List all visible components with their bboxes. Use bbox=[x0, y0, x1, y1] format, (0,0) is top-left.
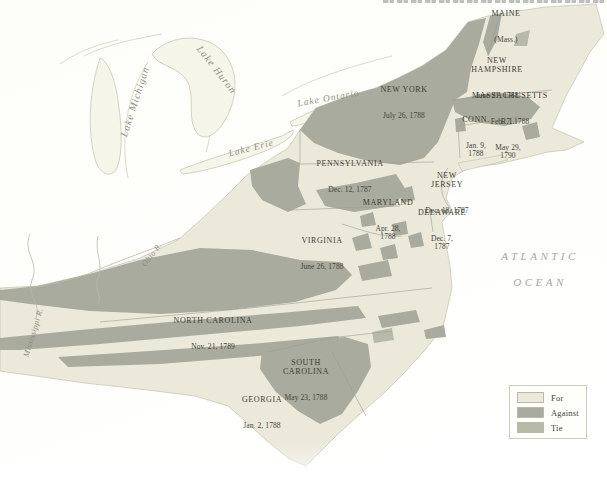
legend-row-tie: Tie bbox=[517, 422, 580, 433]
page-bottom-fade bbox=[0, 442, 607, 488]
for-color-swatch bbox=[517, 392, 544, 403]
legend-row-for: For bbox=[517, 392, 580, 403]
lake-huron-shape bbox=[152, 38, 235, 137]
lake-michigan-shape bbox=[90, 58, 121, 174]
ratification-map-figure: MAINE (Mass.) NEW HAMPSHIRE June 21, 178… bbox=[0, 0, 607, 488]
for-label: For bbox=[551, 393, 563, 403]
tie-label: Tie bbox=[551, 423, 563, 433]
legend-row-against: Against bbox=[517, 407, 580, 418]
map-legend: For Against Tie bbox=[509, 385, 587, 439]
against-label: Against bbox=[551, 408, 579, 418]
tie-color-swatch bbox=[517, 422, 544, 433]
against-color-swatch bbox=[517, 407, 544, 418]
